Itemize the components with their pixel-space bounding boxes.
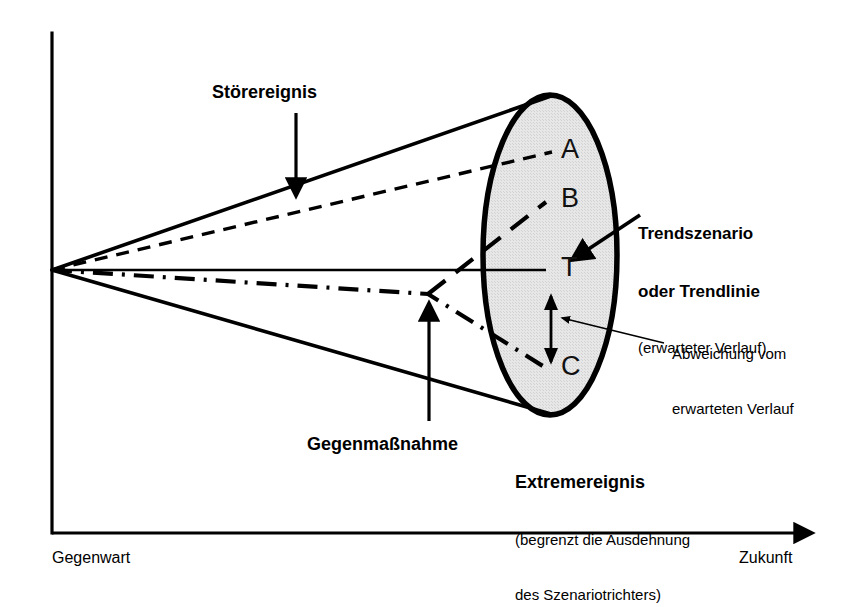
disturbance-label: Störereignis (212, 82, 317, 103)
funnel-lower-bound (52, 270, 551, 414)
funnel-upper-bound (52, 96, 551, 270)
extreme-event-annotation: Extremereignis (begrenzt die Ausdehnung … (515, 434, 690, 607)
trend-title-line1: Trendszenario (638, 224, 766, 244)
deviation-line1: Abweichung vom (672, 345, 794, 363)
deviation-annotation: Abweichung vom erwarteten Verlauf (672, 307, 794, 456)
scenario-ellipse (483, 95, 617, 415)
scenario-label-t: T (561, 252, 578, 283)
extreme-event-subtitle-line1: (begrenzt die Ausdehnung (515, 531, 690, 549)
scenario-label-b: B (561, 183, 579, 214)
scenario-line-c (52, 270, 546, 368)
scenario-label-c: C (561, 351, 581, 382)
scenario-label-a: A (561, 134, 579, 165)
x-axis-end-label: Zukunft (739, 549, 792, 568)
extreme-event-subtitle-line2: des Szenariotrichters) (515, 586, 690, 604)
deviation-line2: erwarteten Verlauf (672, 400, 794, 418)
x-axis-start-label: Gegenwart (52, 549, 130, 568)
extreme-event-title: Extremereignis (515, 472, 690, 493)
countermeasure-label: Gegenmaßnahme (307, 434, 458, 455)
scenario-line-a (52, 152, 552, 270)
trend-title-line2: oder Trendlinie (638, 282, 766, 302)
